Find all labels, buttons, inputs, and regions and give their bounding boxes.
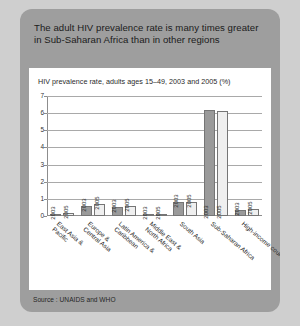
- bar-slot: 2005: [94, 96, 105, 216]
- bar-2003[interactable]: 2003: [81, 206, 92, 216]
- bar-slot: 2003: [143, 96, 154, 216]
- x-label-cell: Latin America &Caribbean: [108, 218, 139, 278]
- bar-2003[interactable]: 2003: [143, 214, 154, 216]
- x-axis-labels: East Asia &PacificEurope &Central AsiaLa…: [47, 218, 262, 278]
- card-header: The adult HIV prevalence rate is many ti…: [20, 9, 280, 47]
- x-label-cell: Europe &Central Asia: [78, 218, 109, 278]
- bar-2003[interactable]: 2003: [112, 207, 123, 216]
- y-tick-label: 2: [40, 178, 44, 185]
- bar-group: 20032005: [201, 96, 232, 216]
- bar-slot: 2003: [112, 96, 123, 216]
- bar-2005[interactable]: 2005: [125, 206, 136, 216]
- bar-year-label: 2003: [111, 199, 117, 212]
- chart-card: The adult HIV prevalence rate is many ti…: [20, 9, 280, 312]
- bar-2003[interactable]: 2003: [204, 110, 215, 216]
- bar-year-label: 2003: [203, 205, 209, 218]
- bar-slot: 2005: [125, 96, 136, 216]
- x-label-cell: Sub-Saharan Africa: [201, 218, 232, 278]
- x-label-cell: Middle East &North Africa: [139, 218, 170, 278]
- bar-2003[interactable]: 2003: [50, 214, 61, 216]
- x-label-cell: South Asia: [170, 218, 201, 278]
- y-tick-label: 4: [40, 144, 44, 151]
- card-title: The adult HIV prevalence rate is many ti…: [34, 22, 266, 47]
- bar-2005[interactable]: 2005: [156, 214, 167, 216]
- bar-year-label: 2005: [247, 201, 253, 214]
- bar-group: 20032005: [78, 96, 109, 216]
- y-tick-label: 5: [40, 127, 44, 134]
- chart-subtitle: HIV prevalence rate, adults ages 15–49, …: [38, 77, 231, 86]
- bar-2003[interactable]: 2003: [235, 210, 246, 216]
- x-label-cell: East Asia &Pacific: [47, 218, 78, 278]
- bar-group: 20032005: [139, 96, 170, 216]
- plot-area: 01234567 2003200520032005200320052003200…: [47, 96, 262, 216]
- bar-year-label: 2003: [81, 198, 87, 211]
- bar-slot: 2003: [173, 96, 184, 216]
- y-tick-label: 7: [40, 93, 44, 100]
- bar-slot: 2005: [63, 96, 74, 216]
- x-axis-category-label: High-income countries: [240, 220, 280, 267]
- bar-year-label: 2003: [234, 202, 240, 215]
- y-tick-mark: [44, 216, 47, 217]
- bar-slot: 2003: [235, 96, 246, 216]
- x-label-cell: High-income countries: [231, 218, 262, 278]
- bar-2005[interactable]: 2005: [186, 202, 197, 216]
- chart-panel: HIV prevalence rate, adults ages 15–49, …: [29, 68, 271, 290]
- bar-group: 20032005: [231, 96, 262, 216]
- y-tick-label: 0: [40, 213, 44, 220]
- bar-year-label: 2005: [186, 195, 192, 208]
- bar-year-label: 2005: [124, 198, 130, 211]
- bar-2005[interactable]: 2005: [217, 111, 228, 216]
- bar-year-label: 2003: [173, 195, 179, 208]
- bar-group: 20032005: [47, 96, 78, 216]
- bar-slot: 2005: [248, 96, 259, 216]
- bar-2003[interactable]: 2003: [173, 202, 184, 216]
- bar-year-label: 2005: [216, 205, 222, 218]
- y-tick-label: 1: [40, 196, 44, 203]
- y-tick-label: 6: [40, 110, 44, 117]
- source-note: Source : UNAIDS and WHO: [33, 296, 116, 303]
- y-tick-label: 3: [40, 161, 44, 168]
- bar-groups: 2003200520032005200320052003200520032005…: [47, 96, 262, 216]
- bar-group: 20032005: [170, 96, 201, 216]
- screenshot-root: The adult HIV prevalence rate is many ti…: [0, 0, 300, 326]
- bar-slot: 2005: [217, 96, 228, 216]
- bar-slot: 2003: [81, 96, 92, 216]
- bar-2005[interactable]: 2005: [94, 204, 105, 216]
- bar-year-label: 2005: [94, 196, 100, 209]
- bar-2005[interactable]: 2005: [63, 213, 74, 216]
- bar-slot: 2005: [186, 96, 197, 216]
- bar-2005[interactable]: 2005: [248, 209, 259, 216]
- bar-slot: 2005: [156, 96, 167, 216]
- bar-slot: 2003: [204, 96, 215, 216]
- bar-group: 20032005: [108, 96, 139, 216]
- bar-slot: 2003: [50, 96, 61, 216]
